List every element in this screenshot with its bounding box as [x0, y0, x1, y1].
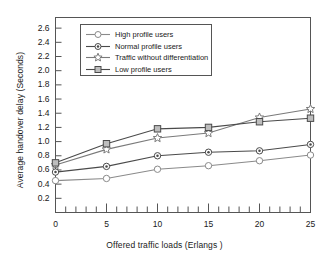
y-tick-label: 2.4 — [26, 37, 50, 47]
legend-label: Low profile users — [115, 64, 172, 75]
x-tick-label: 10 — [146, 219, 170, 229]
y-tick-label: 1.8 — [26, 79, 50, 89]
legend-item: Normal profile users — [85, 41, 182, 52]
y-tick-label: 0.8 — [26, 150, 50, 160]
legend-label: Traffic without differentiation — [115, 52, 208, 63]
series-normal-profile-users — [52, 141, 313, 175]
y-tick-label: 0.4 — [26, 179, 50, 189]
x-tick-label: 0 — [44, 219, 68, 229]
x-tick-label: 5 — [95, 219, 119, 229]
y-axis-title: Average handover delay (Seconds) — [15, 25, 25, 215]
y-tick-label: 1.0 — [26, 136, 50, 146]
legend-marker-star-icon — [85, 52, 111, 63]
y-tick-label: 1.6 — [26, 94, 50, 104]
x-tick-label: 15 — [197, 219, 221, 229]
x-tick-label: 25 — [299, 219, 323, 229]
legend-item: High profile users — [85, 29, 173, 40]
legend-marker-square-icon — [85, 64, 111, 75]
chart-legend: High profile usersNormal profile usersTr… — [80, 24, 212, 76]
legend-item: Traffic without differentiation — [85, 52, 208, 63]
y-tick-label: 0.6 — [26, 164, 50, 174]
x-tick-label: 20 — [248, 219, 272, 229]
y-tick-label: 1.4 — [26, 108, 50, 118]
y-tick-label: 0.2 — [26, 193, 50, 203]
y-tick-label: 2.0 — [26, 65, 50, 75]
legend-marker-circle-dot-icon — [85, 41, 111, 52]
chart-figure: 0.20.40.60.81.01.21.41.61.82.02.22.42.6 … — [0, 0, 329, 265]
data-series-layer — [51, 104, 315, 183]
legend-label: High profile users — [115, 29, 173, 40]
legend-label: Normal profile users — [115, 41, 182, 52]
y-tick-label: 2.2 — [26, 51, 50, 61]
x-axis-minor-ticks — [56, 207, 311, 213]
x-axis-title: Offered traffic loads (Erlangs ) — [0, 240, 329, 250]
y-tick-label: 1.2 — [26, 122, 50, 132]
series-low-profile-users — [52, 115, 313, 166]
legend-marker-circle-open-icon — [85, 29, 111, 40]
legend-item: Low profile users — [85, 64, 172, 75]
y-tick-label: 2.6 — [26, 23, 50, 33]
x-axis-major-ticks — [56, 204, 311, 213]
